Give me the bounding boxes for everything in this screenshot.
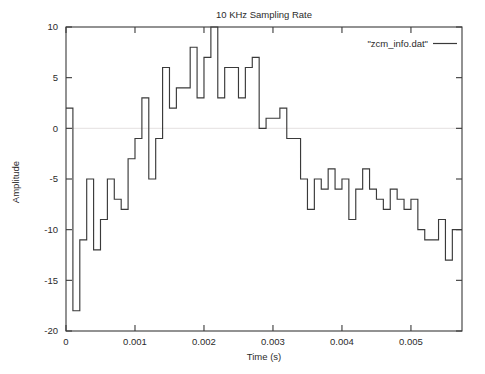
- y-tick-label: -5: [50, 173, 58, 184]
- y-tick-label: 10: [47, 21, 58, 32]
- chart-figure: 10 KHz Sampling Rate 1050-5-10-15-20 00.…: [0, 0, 485, 374]
- x-tick-label: 0.001: [123, 336, 147, 347]
- x-tick-label: 0.002: [192, 336, 216, 347]
- x-tick-label: 0.005: [399, 336, 423, 347]
- chart-title: 10 KHz Sampling Rate: [216, 9, 312, 20]
- y-tick-label: 0: [53, 123, 58, 134]
- x-axis-label: Time (s): [247, 351, 281, 362]
- y-tick-label: 5: [53, 72, 58, 83]
- y-tick-label: -20: [44, 325, 58, 336]
- x-tick-label: 0.003: [261, 336, 285, 347]
- y-tick-label: -10: [44, 224, 58, 235]
- x-tick-label: 0: [63, 336, 68, 347]
- x-tick-label: 0.004: [330, 336, 354, 347]
- y-tick-label: -15: [44, 275, 58, 286]
- legend-entry-label: "zcm_info.dat": [367, 38, 428, 49]
- y-axis-label: Amplitude: [10, 161, 21, 203]
